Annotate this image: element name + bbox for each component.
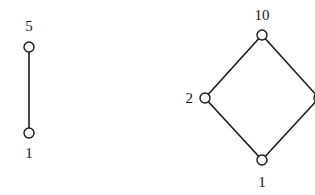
diamond-edge-right-bottom [265, 102, 315, 157]
chain-label-top: 5 [25, 18, 33, 34]
diamond-edge-top-left [208, 39, 258, 95]
diamond-label-left: 2 [186, 90, 194, 106]
chain-node-top [24, 42, 34, 52]
edges [29, 39, 315, 157]
diamond-node-right [314, 93, 315, 103]
nodes [24, 30, 315, 165]
labels: 511021 [25, 7, 269, 190]
diamond-label-top: 10 [255, 7, 270, 23]
diamond-edge-left-bottom [208, 102, 258, 157]
hasse-diagrams: 511021 [0, 0, 315, 195]
diamond-node-bottom [257, 155, 267, 165]
diamond-edge-top-right [265, 39, 315, 95]
chain-label-bottom: 1 [25, 145, 33, 161]
diamond-node-left [200, 93, 210, 103]
diamond-node-top [257, 30, 267, 40]
diamond-label-bottom: 1 [258, 174, 266, 190]
chain-node-bottom [24, 128, 34, 138]
